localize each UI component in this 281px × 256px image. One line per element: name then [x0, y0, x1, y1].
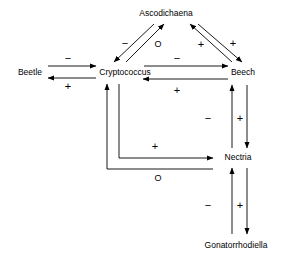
edge-sign-beech-to-cryptococcus: +: [174, 85, 180, 96]
edge-sign-cryptococcus-to-nectria: +: [152, 141, 158, 152]
edge-beech-to-ascodichaena: [190, 24, 232, 62]
edge-sign-beetle-to-cryptococcus: −: [65, 53, 71, 64]
node-label-nectria: Nectria: [225, 153, 252, 162]
edge-sign-beech-to-ascodichaena: +: [198, 39, 204, 50]
node-label-gonatorrhodiella: Gonatorrhodiella: [205, 241, 268, 250]
edge-sign-cryptococcus-to-ascodichaena: O: [154, 40, 161, 49]
edge-nectria-to-cryptococcus: [107, 84, 213, 169]
edge-sign-nectria-to-cryptococcus: O: [154, 174, 161, 183]
edge-sign-cryptococcus-to-beech: −: [174, 53, 180, 64]
edge-sign-ascodichaena-to-beech: +: [230, 38, 236, 49]
node-label-ascodichaena: Ascodichaena: [139, 9, 192, 18]
edge-sign-nectria-to-beech: −: [205, 113, 211, 124]
edge-sign-gonatorrhodiella-to-nectria: −: [205, 200, 211, 211]
edge-sign-ascodichaena-to-cryptococcus: −: [122, 38, 128, 49]
edge-sign-beech-to-nectria: +: [237, 113, 243, 124]
edge-sign-cryptococcus-to-beetle: +: [65, 81, 71, 92]
node-label-beech: Beech: [231, 68, 255, 77]
edge-cryptococcus-to-nectria: [119, 84, 213, 158]
edge-sign-nectria-to-gonatorrhodiella: +: [237, 200, 243, 211]
edge-ascodichaena-to-cryptococcus: [114, 24, 154, 62]
interaction-network-diagram: Ascodichaena Beetle Cryptococcus Beech N…: [0, 0, 281, 256]
node-label-beetle: Beetle: [18, 68, 42, 77]
node-label-cryptococcus: Cryptococcus: [99, 68, 151, 77]
network-edges-layer: [0, 0, 281, 256]
